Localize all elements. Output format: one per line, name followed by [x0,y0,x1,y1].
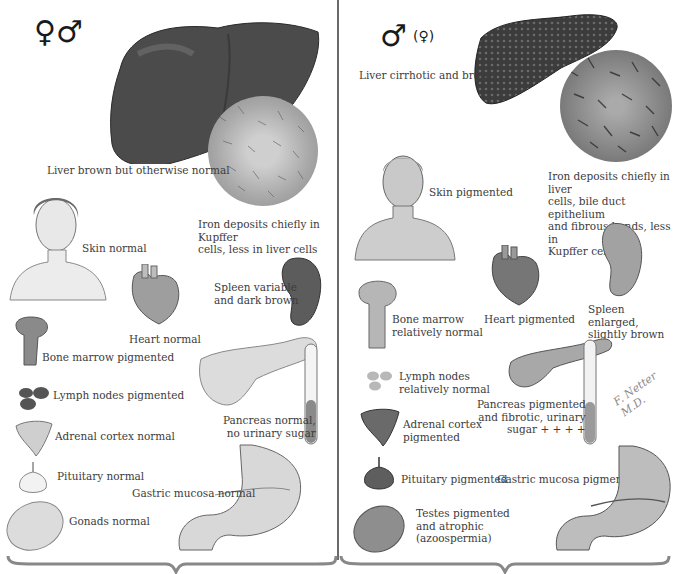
label-heart: Heart pigmented [484,313,575,326]
label-heart: Heart normal [129,333,201,346]
label-lymph-nodes: Lymph nodes relatively normal [399,370,490,395]
label-gastric-mucosa: Gastric mucosa normal [132,487,255,500]
gonad-illustration [4,500,66,552]
label-bone-marrow: Bone marrow relatively normal [392,313,483,338]
heart-illustration [484,245,544,307]
artist-signature: F. Netter M.D. [612,362,677,419]
stomach-pigmented-illustration [549,440,675,552]
label-adrenal: Adrenal cortex pigmented [403,418,482,443]
testis-illustration [351,504,407,554]
spleen-enlarged-illustration [597,220,647,300]
label-pituitary: Pituitary normal [57,470,144,483]
gender-symbol-female-parenthetical: (♀) [413,28,434,44]
label-lymph-nodes: Lymph nodes pigmented [53,389,184,402]
pituitary-illustration [361,455,397,493]
label-pancreas: Pancreas pigmented and fibrotic, urinary… [477,398,586,436]
adrenal-illustration [359,406,401,448]
label-liver: Liver brown but otherwise normal [47,164,230,177]
male-figure-illustration [351,142,461,262]
left-panel-idiopathic: ♀♂ Liver brown but otherwise normal Iron… [0,0,338,574]
heart-illustration [124,264,184,326]
label-pituitary: Pituitary pigmented [401,473,507,486]
label-iron-deposits: Iron deposits chiefly in Kupffer cells, … [198,218,338,256]
right-brace [339,554,673,574]
lymph-nodes-illustration [16,384,56,412]
lymph-nodes-illustration [365,370,395,392]
liver-cell-iron-micrograph [560,50,672,162]
adrenal-illustration [14,418,54,458]
label-skin: Skin pigmented [429,186,513,199]
label-spleen: Spleen variable and dark brown [214,281,299,306]
label-liver: Liver cirrhotic and brown [359,69,496,82]
kupffer-micrograph [208,96,318,206]
label-testes: Testes pigmented and atrophic (azoosperm… [416,507,510,545]
label-bone-marrow: Bone marrow pigmented [42,351,174,364]
label-gonads: Gonads normal [69,515,150,528]
label-skin: Skin normal [82,242,147,255]
pituitary-illustration [16,460,50,496]
left-brace [6,554,338,574]
label-adrenal: Adrenal cortex normal [55,430,175,443]
right-panel-hemochromatosis: ♂ (♀) Liver cirrhotic and brown Iron dep… [339,0,677,574]
gender-symbols-female-male: ♀♂ [34,14,83,49]
gender-symbol-male: ♂ [380,18,407,53]
